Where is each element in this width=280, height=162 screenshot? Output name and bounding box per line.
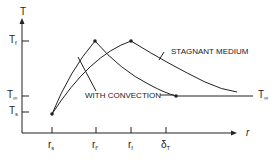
y-axis-arrow-icon — [20, 18, 25, 24]
y-axis-label: T — [20, 7, 26, 17]
label-base: δ — [161, 139, 167, 150]
x-tick-label-r_f: rf — [128, 140, 133, 150]
label-sub: ∞ — [13, 95, 17, 101]
convection-peak-point — [93, 39, 97, 43]
label-sub: s — [15, 111, 18, 117]
x-tick-label-r_f_prime: rf′ — [92, 140, 98, 150]
y-tick-label-T_f: Tf — [9, 35, 17, 45]
surface-point — [50, 112, 54, 116]
stagnant-peak-point — [129, 39, 133, 43]
y-tick-label-T_inf: T∞ — [7, 90, 17, 100]
with-convection-curve — [52, 41, 176, 114]
label-sub: f — [15, 40, 17, 46]
label-sub: ∞ — [264, 95, 268, 101]
with-convection-label: WITH CONVECTION — [85, 92, 161, 100]
stagnant-medium-label: STAGNANT MEDIUM — [171, 48, 248, 56]
x-tick-label-delta_T: δT — [161, 140, 170, 150]
y-tick-label-T_s: Ts — [9, 106, 18, 116]
right-T_inf-label: T∞ — [258, 90, 268, 100]
convection-label-leader-1 — [78, 57, 96, 91]
label-sub: s — [51, 145, 54, 151]
label-sub: f — [131, 145, 133, 151]
x-axis-label: r — [246, 128, 249, 138]
convection-end-point — [174, 94, 178, 98]
label-sub: f′ — [95, 145, 98, 151]
x-axis-arrow-icon — [231, 131, 237, 136]
flame-temperature-profile-diagram — [0, 0, 280, 162]
x-tick-label-r_s: rs — [48, 140, 54, 150]
label-sub: T — [167, 145, 171, 151]
